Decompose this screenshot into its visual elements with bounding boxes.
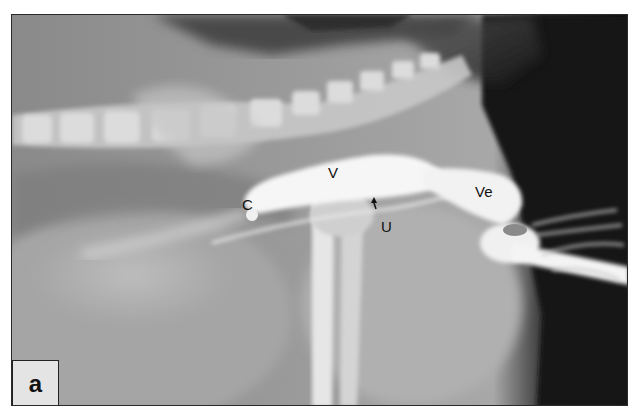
radiograph-figure: C V U Ve a [11,14,628,406]
label-vestibule: Ve [475,184,493,199]
label-vagina: V [328,165,338,180]
xray-image [12,15,628,406]
label-cervix: C [242,197,253,212]
label-urethra: U [381,219,392,234]
panel-label: a [12,360,59,406]
